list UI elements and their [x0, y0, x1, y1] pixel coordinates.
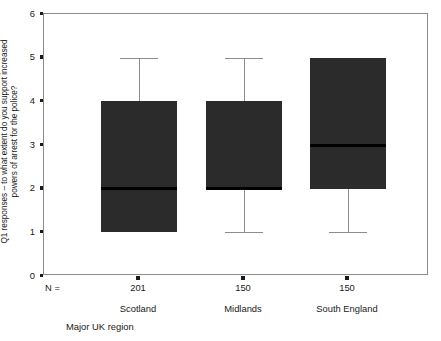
upper-whisker-stem — [139, 58, 140, 102]
y-axis-label-line1: Q1 responses – to what extent do you sup… — [0, 39, 10, 243]
median-line — [310, 144, 386, 147]
x-tick-mark — [345, 276, 349, 280]
lower-whisker-stem — [244, 189, 245, 233]
median-line — [206, 187, 282, 190]
y-axis-label: Q1 responses – to what extent do you sup… — [0, 0, 30, 285]
n-value-midlands: 150 — [203, 281, 283, 294]
category-label-scotland: Scotland — [78, 302, 198, 315]
y-tick-label: 6 — [30, 7, 35, 20]
y-tick-label: 0 — [30, 269, 35, 282]
upper-whisker-stem — [244, 58, 245, 102]
lower-whisker-stem — [348, 189, 349, 233]
lower-whisker-cap — [329, 232, 367, 233]
n-equals-label: N = — [45, 281, 60, 294]
y-tick-label: 1 — [30, 225, 35, 238]
plot-area — [43, 13, 428, 275]
y-tick-label: 4 — [30, 94, 35, 107]
x-axis-label: Major UK region — [66, 320, 134, 333]
box-iqr — [206, 101, 282, 188]
category-label-midlands: Midlands — [183, 302, 303, 315]
y-tick-label: 3 — [30, 138, 35, 151]
x-tick-mark — [136, 276, 140, 280]
n-value-south-england: 150 — [307, 281, 387, 294]
upper-whisker-cap — [120, 58, 158, 59]
n-value-scotland: 201 — [98, 281, 178, 294]
x-tick-mark — [241, 276, 245, 280]
y-axis-label-line2: powers of arrest for the police? — [10, 86, 20, 198]
y-tick-label: 2 — [30, 181, 35, 194]
box-iqr — [101, 101, 177, 232]
y-tick-label: 5 — [30, 50, 35, 63]
lower-whisker-cap — [225, 232, 263, 233]
category-label-south-england: South England — [287, 302, 407, 315]
box-iqr — [310, 58, 386, 189]
boxplot-chart: Q1 responses – to what extent do you sup… — [0, 0, 441, 341]
median-line — [101, 187, 177, 190]
upper-whisker-cap — [225, 58, 263, 59]
